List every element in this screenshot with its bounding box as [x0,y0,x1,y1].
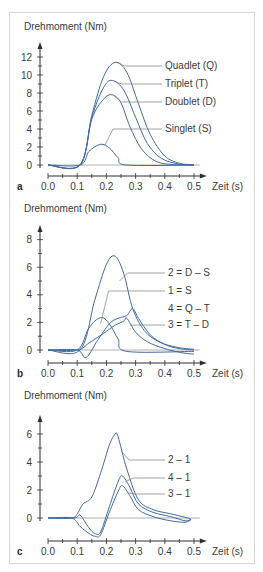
x-tick-label: 0.5 [187,181,201,192]
y-tick-label: 8 [26,88,32,99]
x-tick-label: 0.0 [41,181,55,192]
x-tick-label: 0.5 [187,546,201,557]
leader-line [114,81,162,84]
y-tick-label: 8 [26,234,32,245]
leader-line [117,62,162,66]
y-tick-label: 0 [26,345,32,356]
x-tick-label: 0.4 [158,546,172,557]
x-tick-label: 0.5 [187,368,201,379]
x-tick-label: 0.1 [70,546,84,557]
x-tick-label: 0.4 [158,368,172,379]
y-tick-label: 6 [26,429,32,440]
panel-letter: a [17,181,23,192]
x-tick-label: 0.3 [129,546,143,557]
x-tick-label: 0.1 [70,368,84,379]
series-label: Triplet (T) [165,78,208,89]
series-label: Doublet (D) [165,96,216,107]
x-axis-arrow-icon [200,361,207,366]
leader-line [105,129,162,145]
figure-canvas: Drehmoment (Nm)0246810120.00.10.20.30.40… [0,0,263,572]
series-label: 3 – 1 [168,488,191,499]
series-label: Singlet (S) [165,123,212,134]
y-tick-label: 12 [21,52,33,63]
y-tick-label: 4 [26,124,32,135]
series-curve [48,476,191,535]
leader-line [120,273,165,281]
series-label: 2 = D – S [168,267,210,278]
y-tick-label: 6 [26,106,32,117]
x-axis-title: Zeit (s) [212,368,243,379]
x-axis-title: Zeit (s) [212,181,243,192]
y-tick-label: 6 [26,262,32,273]
leader-line [121,451,165,460]
y-axis-title: Drehmoment (Nm) [24,21,107,32]
series-label: 4 – 1 [168,472,191,483]
series-label: 2 – 1 [168,454,191,465]
y-axis-arrow-icon [38,225,43,232]
x-axis-arrow-icon [200,539,207,544]
x-tick-label: 0.2 [99,368,113,379]
chart-panel-c: Drehmoment (Nm)02460.00.10.20.30.40.5Zei… [17,390,243,557]
x-axis-title: Zeit (s) [212,546,243,557]
y-axis-arrow-icon [38,415,43,422]
x-tick-label: 0.2 [99,546,113,557]
x-tick-label: 0.1 [70,181,84,192]
chart-panel-b: Drehmoment (Nm)024680.00.10.20.30.40.5Ze… [17,203,243,379]
y-tick-label: 0 [26,513,32,524]
y-tick-label: 0 [26,160,32,171]
y-tick-label: 10 [21,70,33,81]
panel-letter: c [17,546,23,557]
y-axis-title: Drehmoment (Nm) [24,203,107,214]
series-label: 3 = T – D [168,319,209,330]
x-tick-label: 0.4 [158,181,172,192]
y-tick-label: 4 [26,289,32,300]
x-tick-label: 0.3 [129,181,143,192]
y-tick-label: 2 [26,485,32,496]
y-axis-title: Drehmoment (Nm) [24,390,107,401]
series-label: Quadlet (Q) [165,60,217,71]
series-label: 1 = S [168,285,192,296]
x-tick-label: 0.0 [41,368,55,379]
y-tick-label: 2 [26,142,32,153]
x-axis-arrow-icon [200,174,207,179]
y-tick-label: 4 [26,457,32,468]
x-tick-label: 0.0 [41,546,55,557]
chart-panel-a: Drehmoment (Nm)0246810120.00.10.20.30.40… [17,21,243,192]
series-label: 4 = Q – T [168,303,210,314]
y-tick-label: 2 [26,317,32,328]
panel-letter: b [17,368,23,379]
y-axis-arrow-icon [38,42,43,49]
leader-line [125,478,165,482]
x-tick-label: 0.2 [99,181,113,192]
x-tick-label: 0.3 [129,368,143,379]
